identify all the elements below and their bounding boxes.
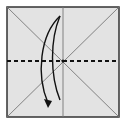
center-point: [62, 60, 65, 63]
origami-diagram: [0, 0, 126, 128]
